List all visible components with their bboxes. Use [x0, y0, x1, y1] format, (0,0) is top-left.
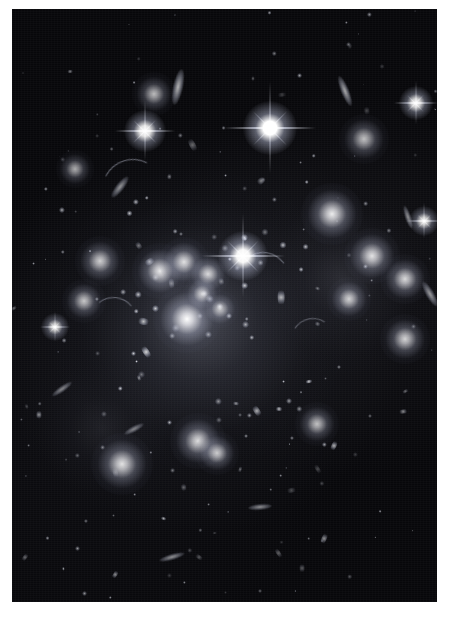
image-frame [0, 0, 451, 621]
astronomical-image-plate [12, 9, 437, 602]
sensor-noise-overlay [12, 9, 437, 602]
